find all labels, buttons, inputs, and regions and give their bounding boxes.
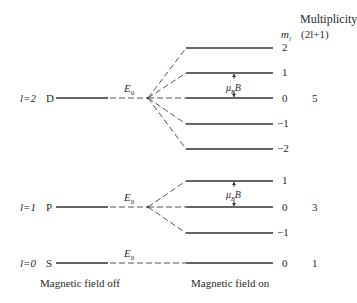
p-ml-m1: −1 — [277, 227, 289, 238]
d-energy-label: E0 — [124, 83, 134, 99]
s-energy-label: E0 — [124, 248, 134, 264]
d-ml-1: 1 — [282, 67, 288, 78]
d-fan-m1 — [148, 98, 186, 124]
d-multiplicity: 5 — [312, 93, 318, 104]
d-ml-m2: −2 — [277, 143, 289, 154]
p-term-label: P — [46, 202, 52, 213]
p-splitting-label: μBB — [226, 189, 241, 205]
s-ml-0: 0 — [282, 258, 288, 269]
p-fan-1 — [148, 181, 186, 207]
p-l-label: l=1 — [20, 202, 36, 213]
d-ml-2: 2 — [282, 42, 288, 53]
d-ml-m1: −1 — [277, 118, 289, 129]
d-l-label: l=2 — [20, 93, 36, 104]
d-fan-1 — [148, 73, 186, 98]
p-ml-1: 1 — [282, 175, 288, 186]
multiplicity-header: Multiplicity — [300, 14, 357, 25]
s-l-label: l=0 — [20, 258, 36, 269]
d-splitting-label: μBB — [226, 82, 241, 98]
formula-header: (2l+1) — [301, 29, 329, 40]
p-fan-m1 — [148, 207, 186, 233]
p-multiplicity: 3 — [312, 202, 318, 213]
d-level-group — [56, 48, 273, 149]
field-off-label: Magnetic field off — [40, 278, 120, 289]
d-ml-0: 0 — [282, 93, 288, 104]
d-fan-2 — [148, 48, 186, 98]
field-on-label: Magnetic field on — [191, 278, 269, 289]
s-term-label: S — [46, 258, 52, 269]
s-multiplicity: 1 — [312, 258, 318, 269]
d-fan-m2 — [148, 98, 186, 149]
d-term-label: D — [46, 93, 54, 104]
p-energy-label: E0 — [124, 192, 134, 208]
p-ml-0: 0 — [282, 202, 288, 213]
